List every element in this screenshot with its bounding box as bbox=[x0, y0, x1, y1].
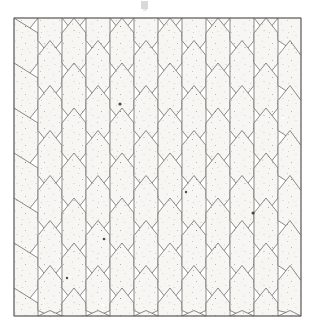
white-speck-artifact bbox=[69, 276, 71, 278]
white-speck-artifact bbox=[66, 211, 69, 214]
ink-dot-artifact bbox=[66, 277, 68, 279]
ink-dot-artifact bbox=[185, 191, 187, 193]
figure-root: Hexagon-and-triangle tiling pattern bbox=[0, 0, 315, 332]
ink-dot-artifact bbox=[103, 238, 106, 241]
ink-dot-artifact bbox=[252, 212, 255, 215]
tiling-pattern-canvas bbox=[0, 0, 315, 332]
white-speck-artifact bbox=[101, 303, 104, 306]
white-speck-artifact bbox=[282, 117, 285, 120]
ink-dot-artifact bbox=[118, 102, 121, 105]
scan-smudge-secondary-icon bbox=[143, 8, 147, 11]
